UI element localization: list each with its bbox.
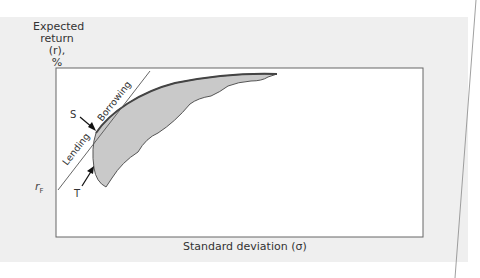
x-axis-label: Standard deviation (σ): [183, 240, 307, 253]
rf-subscript: F: [40, 187, 44, 195]
diagram-canvas: S T Lending Borrowing: [0, 0, 480, 278]
page-edge-line: [455, 0, 476, 278]
label-t: T: [73, 188, 81, 199]
risk-free-rate-label: rF: [35, 180, 44, 195]
label-s: S: [70, 109, 76, 120]
